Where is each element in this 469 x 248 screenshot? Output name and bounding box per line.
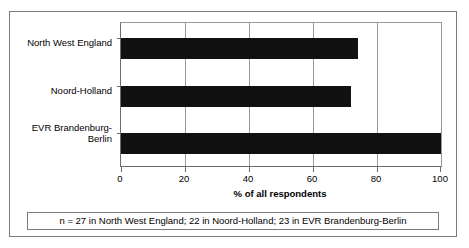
- bar-north-west-england: [121, 38, 358, 59]
- x-tick-mark-40: [249, 167, 250, 172]
- category-label-text-line2: Berlin: [88, 133, 112, 144]
- category-label-text: North West England: [27, 37, 112, 48]
- x-tick-mark-20: [185, 167, 186, 172]
- x-tick-label-60: 60: [307, 173, 318, 185]
- bar-row: [121, 133, 441, 154]
- footnote-box: n = 27 in North West England; 22 in Noor…: [27, 212, 439, 230]
- x-tick-mark-100: [440, 167, 441, 172]
- bar-row: [121, 86, 351, 107]
- footnote-text: n = 27 in North West England; 22 in Noor…: [59, 215, 406, 227]
- bar-noord-holland: [121, 86, 351, 107]
- category-label-text-line1: EVR Brandenburg-: [32, 122, 112, 133]
- x-tick-label-40: 40: [243, 173, 254, 185]
- category-label-text: Noord-Holland: [51, 85, 112, 96]
- x-tick-mark-0: [121, 167, 122, 172]
- category-label-evr-brandenburg-berlin: EVR Brandenburg- Berlin: [10, 122, 112, 144]
- x-axis-tick-labels: 0 20 40 60 80 100: [120, 173, 440, 187]
- plot-area: [120, 22, 442, 167]
- category-label-noord-holland: Noord-Holland: [10, 85, 112, 96]
- x-tick-label-0: 0: [117, 173, 122, 185]
- figure-frame: North West England Noord-Holland EVR Bra…: [9, 11, 457, 237]
- x-tick-label-20: 20: [179, 173, 190, 185]
- x-tick-mark-60: [313, 167, 314, 172]
- x-tick-mark-80: [377, 167, 378, 172]
- category-label-north-west-england: North West England: [10, 37, 112, 48]
- x-tick-label-80: 80: [371, 173, 382, 185]
- bar-row: [121, 38, 358, 59]
- bar-chart: North West England Noord-Holland EVR Bra…: [10, 12, 458, 197]
- x-axis-title: % of all respondents: [120, 188, 440, 200]
- x-tick-label-100: 100: [432, 173, 448, 185]
- bar-evr-brandenburg-berlin: [121, 133, 441, 154]
- category-axis: North West England Noord-Holland EVR Bra…: [10, 22, 116, 165]
